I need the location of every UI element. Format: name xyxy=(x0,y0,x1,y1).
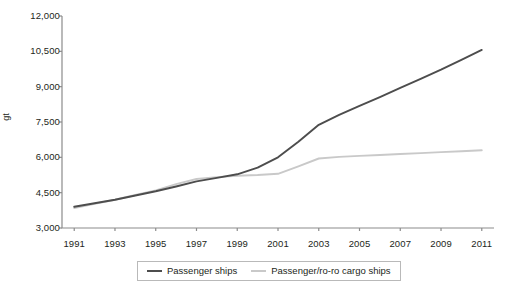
x-axis-tick-label: 2011 xyxy=(471,238,492,249)
x-axis-tick-label: 1993 xyxy=(104,238,126,249)
y-axis-tick-label: 6,000 xyxy=(8,152,60,162)
y-axis-tick-label: 12,000 xyxy=(8,11,60,21)
series-line-passenger-ships xyxy=(74,50,482,207)
legend-line-swatch-icon xyxy=(147,270,162,272)
x-axis-tick-label: 1999 xyxy=(226,238,248,249)
legend-line-swatch-icon xyxy=(251,270,266,272)
x-axis-tick-label: 2005 xyxy=(349,238,371,249)
y-axis-tick-label: 9,000 xyxy=(8,82,60,92)
x-axis-tick-label: 2009 xyxy=(430,238,452,249)
legend-item[interactable]: Passenger ships xyxy=(147,266,237,276)
x-axis-tick-label: 1997 xyxy=(186,238,208,249)
y-axis-tick-label: 10,500 xyxy=(8,46,60,56)
x-axis-tick-label: 2003 xyxy=(308,238,330,249)
chart-legend: Passenger shipsPassenger/ro-ro cargo shi… xyxy=(137,261,401,281)
x-axis-tick-label: 1995 xyxy=(145,238,167,249)
y-axis-tick-label: 7,500 xyxy=(8,117,60,127)
legend-item[interactable]: Passenger/ro-ro cargo ships xyxy=(251,266,390,276)
line-chart: gt 3,0004,5006,0007,5009,00010,50012,000… xyxy=(0,0,505,289)
x-axis-tick-label: 2007 xyxy=(389,238,411,249)
y-axis-tick-label: 4,500 xyxy=(8,188,60,198)
x-axis-tick-labels: 1991199319951997199920012003200520072009… xyxy=(0,232,505,250)
x-axis-tick-label: 1991 xyxy=(63,238,85,249)
x-axis-tick-label: 2001 xyxy=(267,238,289,249)
legend-label: Passenger ships xyxy=(167,266,237,276)
series-line-passenger-roro-cargo-ships xyxy=(74,150,482,208)
y-axis-tick-labels: 3,0004,5006,0007,5009,00010,50012,000 xyxy=(3,0,60,245)
legend-label: Passenger/ro-ro cargo ships xyxy=(271,266,390,276)
